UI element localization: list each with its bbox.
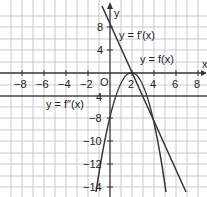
fprime-label: y = f′(x)	[119, 29, 155, 41]
x-tick-label: −4	[58, 78, 71, 90]
y-tick-label: −8	[89, 112, 102, 124]
y-axis-arrow-icon	[107, 2, 113, 9]
y-tick-label: 4	[97, 44, 103, 56]
x-tick-label: −2	[80, 78, 93, 90]
x-axis-arrow-icon	[201, 70, 207, 76]
graph-figure: −8 −6 −4 −2 2 4 6 8 O 8 4 4 −8 −10 −12 −…	[0, 0, 207, 197]
y-tick-label: −14	[83, 181, 102, 193]
x-tick-label: 4	[150, 78, 156, 90]
grid	[0, 0, 207, 197]
y-tick-label: −12	[83, 158, 102, 170]
x-axis-label: x	[202, 58, 207, 70]
x-tick-label: 6	[172, 78, 178, 90]
f-curve	[96, 73, 166, 193]
y-axis-label: y	[114, 7, 120, 19]
fsecond-label: y = f″(x)	[46, 98, 84, 110]
y-tick-label: −10	[83, 135, 102, 147]
x-tick-label: −8	[14, 78, 27, 90]
origin-label: O	[100, 76, 109, 88]
x-tick-label: −6	[36, 78, 49, 90]
f-label: y = f(x)	[140, 53, 174, 65]
chart-svg: −8 −6 −4 −2 2 4 6 8 O 8 4 4 −8 −10 −12 −…	[0, 0, 207, 197]
y-tick-label: 8	[97, 21, 103, 33]
y-tick-label: 4	[96, 91, 102, 103]
x-tick-label: 8	[194, 78, 200, 90]
x-tick-label: 2	[128, 78, 134, 90]
